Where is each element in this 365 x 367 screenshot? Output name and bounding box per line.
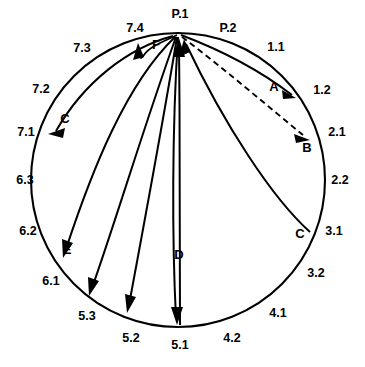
- tick-label-4-2: 4.2: [223, 331, 240, 345]
- tick-label-5-3: 5.3: [78, 309, 95, 323]
- outer-circle: [31, 33, 325, 327]
- circular-flow-diagram: P.1 P.2 1.1 1.2 2.1 2.2 3.1 3.2 4.1 4.2 …: [0, 0, 365, 367]
- flow-label-d: D: [174, 247, 183, 262]
- tick-label-7-3: 7.3: [73, 41, 90, 55]
- tick-label-7-4: 7.4: [126, 21, 143, 35]
- tick-label-7-2: 7.2: [32, 82, 49, 96]
- tick-label-2-1: 2.1: [328, 125, 345, 139]
- tick-label-3-1: 3.1: [325, 224, 342, 238]
- flow-path-c-right: [186, 44, 310, 232]
- flow-label-c-right: C: [295, 226, 305, 241]
- flow-path-e2: [92, 37, 176, 288]
- arrowhead-a: [282, 90, 296, 99]
- flow-label-a: A: [269, 79, 279, 94]
- flow-path-inward-center: [179, 44, 180, 325]
- tick-label-5-2: 5.2: [122, 331, 139, 345]
- tick-label-7-1: 7.1: [17, 125, 34, 139]
- tick-label-6-2: 6.2: [19, 224, 36, 238]
- tick-label-p1: P.1: [171, 7, 188, 21]
- tick-label-1-2: 1.2: [313, 83, 330, 97]
- flow-path-b: [182, 37, 303, 135]
- flow-path-d2: [129, 37, 177, 305]
- flow-label-f: F: [152, 37, 160, 52]
- flow-path-d: [173, 37, 178, 318]
- flow-label-e: E: [63, 242, 72, 257]
- arrowhead-e2: [88, 277, 99, 296]
- tick-label-6-1: 6.1: [42, 274, 59, 288]
- tick-label-p2: P.2: [219, 21, 236, 35]
- flow-label-c-left: C: [60, 111, 70, 126]
- diagram-canvas: P.1 P.2 1.1 1.2 2.1 2.2 3.1 3.2 4.1 4.2 …: [0, 0, 365, 367]
- tick-label-6-3: 6.3: [16, 173, 33, 187]
- tick-label-5-1: 5.1: [171, 338, 188, 352]
- tick-label-4-1: 4.1: [269, 306, 286, 320]
- arrowhead-d2: [125, 294, 136, 313]
- tick-label-3-2: 3.2: [307, 266, 324, 280]
- flow-label-b: B: [302, 140, 311, 155]
- tick-label-2-2: 2.2: [331, 173, 348, 187]
- arrowhead-d: [171, 307, 183, 325]
- tick-label-1-1: 1.1: [267, 40, 284, 54]
